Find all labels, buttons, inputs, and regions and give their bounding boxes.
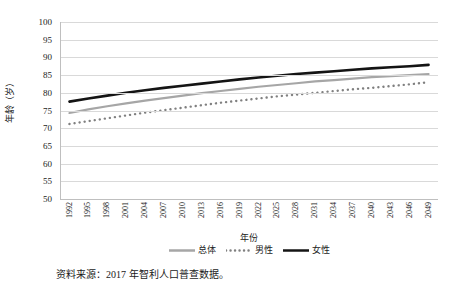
x-axis-tick-label: 2025 [273, 202, 281, 218]
x-axis-tick-label: 2007 [160, 202, 168, 218]
plot-area [60, 22, 438, 199]
gridline [60, 93, 438, 94]
gridline [60, 75, 438, 76]
y-axis-tick-label: 100 [39, 18, 53, 27]
legend-label: 男性 [255, 246, 273, 255]
x-axis-tick-label: 2004 [141, 202, 149, 218]
x-axis-tick-label: 1992 [66, 202, 74, 218]
source-note: 资料来源：2017 年智利人口普查数据。 [56, 266, 229, 281]
y-axis-tick-label: 70 [43, 124, 52, 133]
gridline [60, 57, 438, 58]
x-axis-tick-label: 2028 [292, 202, 300, 218]
y-axis-tick-labels: 10095908580757065605550 [0, 0, 58, 286]
x-axis-tick-label: 1995 [84, 202, 92, 218]
x-axis-tick-label: 2022 [255, 202, 263, 218]
gridline [60, 181, 438, 182]
x-axis-tick-label: 2037 [349, 202, 357, 218]
gridlines [60, 22, 438, 199]
x-axis-tick-label: 2040 [368, 202, 376, 218]
x-axis-tick-label: 2049 [425, 202, 433, 218]
x-axis-tick-label: 2043 [387, 202, 395, 218]
legend-label: 总体 [198, 246, 216, 255]
x-axis-tick-label: 2013 [198, 202, 206, 218]
y-axis-tick-label: 55 [43, 177, 52, 186]
gridline [60, 22, 438, 23]
y-axis-tick-label: 95 [43, 35, 52, 44]
gridline [60, 40, 438, 41]
x-axis-tick-label: 2016 [217, 202, 225, 218]
x-axis-line [60, 199, 438, 200]
x-axis-tick-label: 1998 [103, 202, 111, 218]
legend-swatch-女性 [283, 246, 309, 255]
y-axis-tick-label: 75 [43, 106, 52, 115]
legend-swatch-总体 [169, 246, 195, 255]
gridline [60, 128, 438, 129]
x-axis-tick-label: 2001 [122, 202, 130, 218]
legend-swatch-男性 [226, 246, 252, 255]
y-axis-tick-label: 65 [43, 141, 52, 150]
x-axis-title: 年份 [60, 231, 438, 244]
x-axis-tick-label: 2034 [330, 202, 338, 218]
x-axis-tick-labels: 1992199519982001200420072010201320162019… [60, 202, 438, 232]
y-axis-tick-label: 60 [43, 159, 52, 168]
figure-container: 10095908580757065605550 年龄（岁） 1992199519… [0, 0, 454, 286]
x-axis-tick-label: 2010 [179, 202, 187, 218]
x-axis-tick-label: 2046 [406, 202, 414, 218]
gridline [60, 146, 438, 147]
legend-item[interactable]: 男性 [226, 246, 273, 255]
gridline [60, 111, 438, 112]
y-axis-tick-label: 85 [43, 71, 52, 80]
legend-item[interactable]: 总体 [169, 246, 216, 255]
x-axis-tick-label: 2019 [236, 202, 244, 218]
gridline [60, 164, 438, 165]
x-axis-tick-label: 2031 [311, 202, 319, 218]
y-axis-tick-label: 90 [43, 53, 52, 62]
y-axis-tick-label: 80 [43, 88, 52, 97]
y-axis-tick-label: 50 [43, 195, 52, 204]
legend-label: 女性 [312, 246, 330, 255]
y-axis-title: 年龄（岁） [5, 64, 15, 136]
chart-legend: 总体男性女性 [60, 246, 438, 255]
legend-item[interactable]: 女性 [283, 246, 330, 255]
y-axis-line [60, 22, 61, 200]
